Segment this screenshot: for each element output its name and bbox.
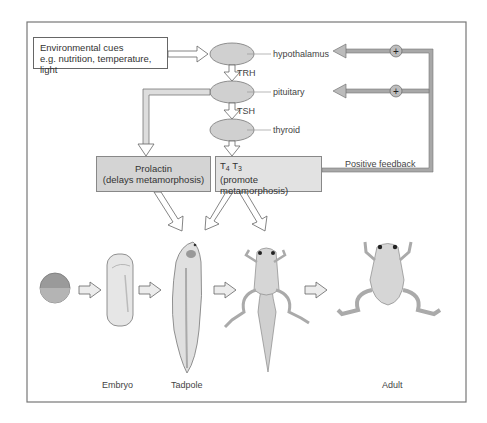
embryo-illustration <box>107 254 133 326</box>
pituitary-to-prolactin-arrow <box>138 89 210 156</box>
plus-sign-hypothalamus: + <box>393 46 399 57</box>
t4-t3-effect: (promote metamorphosis) <box>220 174 321 196</box>
tadpole-illustration <box>172 242 201 373</box>
embryo-to-tadpole-arrow <box>139 282 161 298</box>
prolactin-title: Prolactin <box>97 163 210 174</box>
trh-label: TRH <box>237 69 256 78</box>
embryo-label: Embryo <box>102 381 133 390</box>
feedback-arrowhead-hypothalamus <box>333 44 346 58</box>
figure-frame <box>27 22 466 402</box>
adult-label: Adult <box>382 381 403 390</box>
tsh-label: TSH <box>237 107 255 116</box>
env-to-hypothalamus-arrow <box>168 46 208 62</box>
t-box-to-froglet-arrow <box>239 192 267 231</box>
positive-feedback-loop <box>322 44 433 172</box>
hypothalamus-label: hypothalamus <box>273 50 329 59</box>
tadpole-to-froglet-arrow <box>214 282 236 298</box>
prolactin-to-tadpole-arrow <box>154 192 183 231</box>
froglet-illustration <box>225 248 309 372</box>
thyroid-hormones-box: T4 T3 (promote metamorphosis) <box>215 156 322 192</box>
adult-frog-illustration <box>338 242 440 314</box>
thyroid-label: thyroid <box>273 126 300 135</box>
froglet-to-adult-arrow <box>305 282 327 298</box>
env-line2: e.g. nutrition, temperature, light <box>40 53 167 75</box>
environmental-cues-box: Environmental cues e.g. nutrition, tempe… <box>33 37 168 69</box>
t-box-to-tadpole-arrow <box>205 192 233 230</box>
prolactin-box: Prolactin (delays metamorphosis) <box>96 156 211 192</box>
t4-t3-title: T4 T3 <box>220 160 321 174</box>
positive-feedback-label: Positive feedback <box>345 160 416 169</box>
plus-sign-pituitary: + <box>393 86 399 97</box>
pituitary-label: pituitary <box>273 88 305 97</box>
thyroid-to-t-box-arrow <box>224 141 240 156</box>
env-line1: Environmental cues <box>40 42 167 53</box>
feedback-arrowhead-pituitary <box>333 84 346 98</box>
gland-leader-lines <box>247 54 271 130</box>
tadpole-label: Tadpole <box>171 381 203 390</box>
egg-to-embryo-arrow <box>79 282 101 298</box>
prolactin-effect: (delays metamorphosis) <box>97 174 210 185</box>
